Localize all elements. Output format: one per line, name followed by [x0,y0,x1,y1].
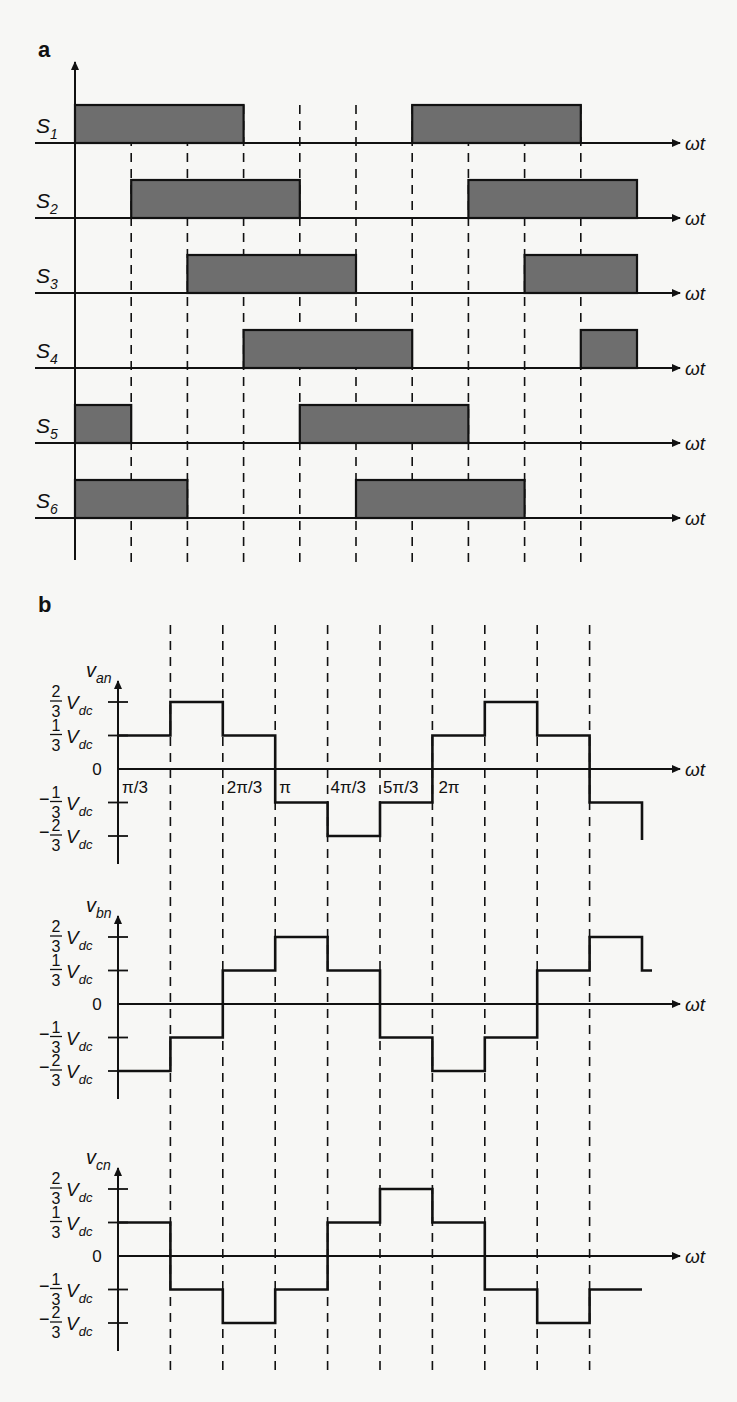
fraction-denominator: 3 [52,1072,61,1089]
fraction-numerator: 1 [52,952,61,969]
omega-t-label: ωt [685,433,706,454]
panel-b-label: b [38,592,51,617]
fraction-numerator: 2 [52,1170,61,1187]
omega-t-label: ωt [685,283,706,304]
signal-label-s1: S1 [36,114,58,142]
signal-row-s6: S6ωt [35,480,706,529]
fraction-numerator: 1 [52,717,61,734]
fraction-numerator: 2 [52,817,61,834]
x-tick-label: 2π/3 [227,778,262,797]
omega-t-label: ωt [685,358,706,379]
signal-label-s6: S6 [36,489,58,517]
omega-t-label: ωt [685,1246,706,1267]
signal-row-s5: S5ωt [35,405,706,454]
zero-label: 0 [92,1247,101,1266]
pulse-s3 [187,255,356,293]
fraction-numerator: 2 [52,1304,61,1321]
pulse-s3 [525,255,637,293]
minus-sign: − [39,1057,50,1077]
zero-label: 0 [92,995,101,1014]
pulse-s6 [75,480,187,518]
inverter-waveform-figure: a b S1ωtS2ωtS3ωtS4ωtS5ωtS6ωt ωtvan23Vdc1… [0,0,737,1402]
omega-t-label: ωt [685,133,706,154]
pulse-s4 [581,330,637,368]
minus-sign: − [39,1309,50,1329]
signal-row-s1: S1ωt [35,105,706,154]
fraction-denominator: 3 [52,737,61,754]
signal-row-s2: S2ωt [35,180,706,229]
signal-label-s4: S4 [36,339,58,367]
fraction-denominator: 3 [52,1324,61,1341]
x-tick-label: π [279,778,291,797]
signal-row-s4: S4ωt [35,330,706,379]
panel-b-phase-voltages: ωtvan23Vdc13Vdc−13Vdc−23Vdc0π/32π/3π4π/3… [0,625,706,1370]
zero-label: 0 [92,760,101,779]
omega-t-label: ωt [685,994,706,1015]
fraction-numerator: 1 [52,784,61,801]
fraction-numerator: 2 [52,683,61,700]
fraction-numerator: 1 [52,1271,61,1288]
fraction-denominator: 3 [52,837,61,854]
pulse-s1 [412,105,581,143]
fraction-numerator: 2 [52,1052,61,1069]
panel-a-switching-signals: S1ωtS2ωtS3ωtS4ωtS5ωtS6ωt [35,62,706,568]
signal-label-s3: S3 [36,264,58,292]
minus-sign: − [39,1276,50,1296]
pulse-s5 [75,405,131,443]
signal-label-s5: S5 [36,414,58,442]
pulse-s2 [131,180,300,218]
signal-row-s3: S3ωt [35,255,706,304]
pulse-s1 [75,105,244,143]
waveform-v-cn: ωtvcn23Vdc13Vdc−13Vdc−23Vdc0 [0,1146,706,1351]
x-tick-label: 2π [438,778,459,797]
x-tick-label: 4π/3 [331,778,366,797]
omega-t-label: ωt [685,759,706,780]
minus-sign: − [39,822,50,842]
minus-sign: − [39,1024,50,1044]
fraction-numerator: 1 [52,1019,61,1036]
minus-sign: − [39,789,50,809]
pulse-s6 [356,480,525,518]
panel-a-label: a [38,37,51,62]
x-tick-label: π/3 [122,778,148,797]
fraction-denominator: 3 [52,1224,61,1241]
pulse-s2 [468,180,637,218]
omega-t-label: ωt [685,508,706,529]
pulse-s5 [300,405,469,443]
omega-t-label: ωt [685,208,706,229]
waveform-v-bn: ωtvbn23Vdc13Vdc−13Vdc−23Vdc0 [0,894,706,1099]
fraction-denominator: 3 [52,972,61,989]
fraction-numerator: 2 [52,918,61,935]
waveform-v-an: ωtvan23Vdc13Vdc−13Vdc−23Vdc0π/32π/3π4π/3… [0,659,706,864]
x-tick-label: 5π/3 [383,778,418,797]
fraction-numerator: 1 [52,1204,61,1221]
pulse-s4 [244,330,413,368]
signal-label-s2: S2 [36,189,58,217]
